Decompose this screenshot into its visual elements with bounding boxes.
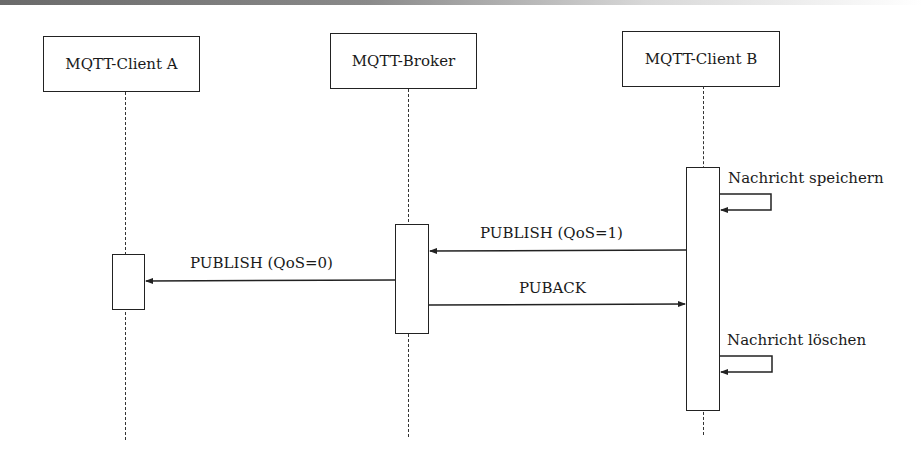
self-message-arrow-store: [720, 194, 771, 210]
message-label-store: Nachricht speichern: [728, 169, 884, 187]
arrow-publish-qos0: [146, 280, 395, 281]
message-label-publish-qos1: PUBLISH (QoS=1): [480, 224, 623, 242]
arrow-publish-qos1: [430, 250, 686, 251]
message-label-puback: PUBACK: [519, 279, 586, 297]
message-label-publish-qos0: PUBLISH (QoS=0): [190, 254, 333, 272]
message-label-delete: Nachricht löschen: [727, 331, 866, 349]
arrow-puback: [429, 304, 685, 305]
self-message-arrow-delete: [720, 356, 772, 372]
message-arrows: [0, 0, 923, 462]
